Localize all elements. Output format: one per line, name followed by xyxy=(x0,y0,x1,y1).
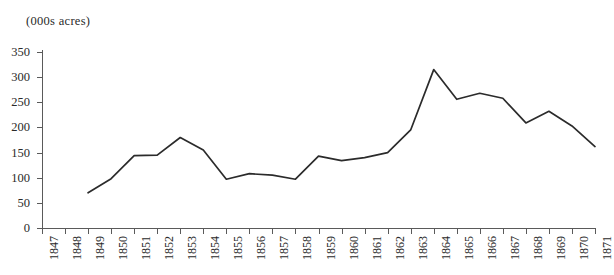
y-tick-label: 300 xyxy=(11,70,30,85)
x-tick-mark xyxy=(480,229,481,234)
x-tick-label: 1864 xyxy=(439,236,454,260)
x-tick-label: 1848 xyxy=(70,236,85,260)
x-tick-mark xyxy=(526,229,527,234)
chart-figure: (000s acres) 050100150200250300350 18471… xyxy=(0,0,614,275)
x-tick-mark xyxy=(272,229,273,234)
x-tick-label: 1850 xyxy=(116,236,131,260)
x-tick-mark xyxy=(434,229,435,234)
x-tick-label: 1857 xyxy=(277,236,292,260)
x-tick-label: 1852 xyxy=(162,236,177,260)
x-tick-mark xyxy=(226,229,227,234)
x-tick-label: 1869 xyxy=(554,236,569,260)
y-tick-label: 200 xyxy=(11,120,30,135)
x-tick-label: 1867 xyxy=(508,236,523,260)
y-tick-label: 50 xyxy=(18,195,31,210)
x-tick-mark xyxy=(42,229,43,234)
x-tick-mark xyxy=(342,229,343,234)
x-tick-mark xyxy=(457,229,458,234)
x-tick-label: 1859 xyxy=(324,236,339,260)
x-tick-label: 1855 xyxy=(231,236,246,260)
x-tick-label: 1851 xyxy=(139,236,154,260)
x-tick-label: 1853 xyxy=(185,236,200,260)
x-tick-label: 1858 xyxy=(300,236,315,260)
y-tick-label: 100 xyxy=(11,170,30,185)
x-tick-label: 1856 xyxy=(254,236,269,260)
x-tick-mark xyxy=(388,229,389,234)
y-tick-label: 250 xyxy=(11,95,30,110)
x-tick-label: 1861 xyxy=(370,236,385,260)
y-tick-label: 350 xyxy=(11,45,30,60)
x-tick-label: 1871 xyxy=(600,236,614,260)
x-tick-mark xyxy=(503,229,504,234)
x-tick-mark xyxy=(595,229,596,234)
x-tick-label: 1860 xyxy=(347,236,362,260)
x-tick-mark xyxy=(180,229,181,234)
x-tick-label: 1862 xyxy=(393,236,408,260)
x-tick-mark xyxy=(411,229,412,234)
x-tick-mark xyxy=(88,229,89,234)
x-tick-label: 1863 xyxy=(416,236,431,260)
x-tick-label: 1870 xyxy=(577,236,592,260)
x-tick-mark xyxy=(65,229,66,234)
x-tick-mark xyxy=(549,229,550,234)
y-tick-label: 150 xyxy=(11,145,30,160)
x-tick-mark xyxy=(319,229,320,234)
x-tick-mark xyxy=(111,229,112,234)
x-tick-label: 1847 xyxy=(47,236,62,260)
x-tick-mark xyxy=(157,229,158,234)
x-tick-mark xyxy=(203,229,204,234)
x-axis-ticks xyxy=(0,229,614,235)
x-tick-label: 1868 xyxy=(531,236,546,260)
x-tick-label: 1865 xyxy=(462,236,477,260)
x-tick-mark xyxy=(249,229,250,234)
x-tick-mark xyxy=(295,229,296,234)
x-tick-label: 1854 xyxy=(208,236,223,260)
x-tick-mark xyxy=(134,229,135,234)
x-tick-mark xyxy=(365,229,366,234)
x-axis-labels: 1847184818491850185118521853185418551856… xyxy=(0,236,614,275)
plot-area xyxy=(42,52,595,228)
x-tick-mark xyxy=(572,229,573,234)
x-tick-label: 1849 xyxy=(93,236,108,260)
x-tick-label: 1866 xyxy=(485,236,500,260)
